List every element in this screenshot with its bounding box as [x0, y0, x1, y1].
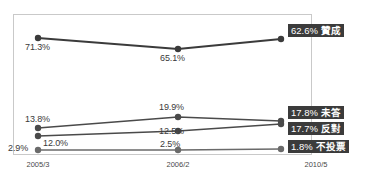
data-point-oppose-2005 [35, 133, 41, 139]
x-axis-label-1: 2006/2 [158, 160, 198, 169]
data-label-novote-2005: 2.9% [8, 143, 28, 153]
end-label-approve-pct: 62.6% [291, 24, 318, 37]
end-label-oppose-name: 反對 [321, 122, 341, 135]
data-point-approve-2005 [35, 35, 41, 41]
end-label-novote: 1.8% 不投票 [288, 140, 349, 153]
end-label-oppose-pct: 17.7% [291, 122, 318, 135]
data-point-noanswer-2005 [35, 125, 41, 131]
series-line-approve [35, 35, 284, 52]
data-label-noanswer-2006: 19.9% [159, 102, 184, 112]
data-label-approve-2005: 71.3% [25, 42, 50, 52]
end-label-oppose: 17.7% 反對 [288, 122, 344, 135]
end-label-approve: 62.6% 贊成 [288, 24, 344, 37]
end-label-noanswer-name: 未答 [321, 106, 341, 119]
end-label-noanswer-pct: 17.8% [291, 106, 318, 119]
end-label-novote-name: 不投票 [316, 140, 346, 153]
end-label-noanswer: 17.8% 未答 [288, 106, 344, 119]
data-label-novote-2006: 2.5% [160, 139, 180, 149]
data-label-oppose-2006: 12.5% [159, 126, 184, 136]
x-axis-label-2: 2010/5 [296, 160, 336, 169]
data-point-noanswer-2006 [175, 114, 181, 120]
line-chart: 71.3% 65.1% 13.8% 19.9% 12.0% 12.5% 2.9%… [0, 0, 371, 181]
end-label-novote-pct: 1.8% [291, 140, 313, 153]
data-point-oppose-2010 [278, 121, 284, 127]
data-point-novote-2010 [278, 146, 284, 152]
data-point-approve-2010 [278, 36, 284, 42]
data-label-noanswer-2005: 13.8% [25, 114, 50, 124]
data-point-approve-2006 [175, 46, 181, 52]
data-label-approve-2006: 65.1% [160, 53, 185, 63]
data-point-novote-2005 [35, 147, 41, 153]
data-label-oppose-2005: 12.0% [43, 138, 68, 148]
x-axis-label-0: 2005/3 [18, 160, 58, 169]
end-label-approve-name: 贊成 [321, 24, 341, 37]
